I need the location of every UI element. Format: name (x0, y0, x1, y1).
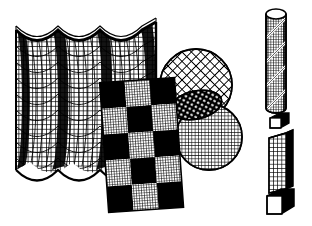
illustration-svg (0, 0, 312, 226)
figure-canvas (0, 0, 312, 226)
gridded-column (266, 130, 293, 196)
cylinder-top-cap (266, 9, 286, 19)
small-cube-front-face (270, 118, 281, 128)
pedestal-front-face (267, 196, 282, 214)
checkerboard-plane (100, 78, 184, 213)
spiral-cylinder (264, 9, 288, 116)
